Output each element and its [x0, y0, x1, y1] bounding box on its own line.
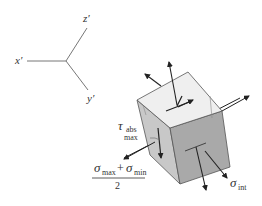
svg-text:τ: τ: [118, 118, 124, 133]
svg-text:σ: σ: [126, 160, 133, 175]
sigma-max-arrow: [222, 96, 249, 111]
coordinate-axes: x′ z′ y′: [14, 12, 95, 104]
average-normal-stress-label: σ max + σ min 2: [92, 160, 146, 191]
svg-text:min: min: [134, 168, 146, 177]
svg-text:int: int: [238, 183, 247, 192]
stress-element-diagram: x′ z′ y′ τ abs max σ int: [0, 0, 262, 206]
svg-text:σ: σ: [230, 175, 237, 190]
y-axis-label: y′: [86, 92, 95, 104]
tau-abs-max-label: τ abs max: [118, 118, 138, 142]
z-axis-label: z′: [82, 12, 90, 24]
svg-text:2: 2: [115, 180, 120, 191]
sigma-int-label: σ int: [230, 175, 247, 192]
stress-cube: [137, 72, 230, 184]
x-axis-label: x′: [14, 54, 23, 66]
svg-text:max: max: [124, 133, 138, 142]
svg-text:+: +: [117, 161, 124, 175]
svg-text:σ: σ: [94, 160, 101, 175]
svg-text:max: max: [102, 168, 116, 177]
